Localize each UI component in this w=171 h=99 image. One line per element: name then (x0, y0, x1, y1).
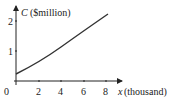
y-axis-unit: ($million) (30, 7, 71, 19)
x-tick-label-6: 6 (81, 86, 86, 97)
cost-curve (16, 14, 108, 74)
origin-label: 0 (4, 86, 9, 97)
y-tick-label-1: 1 (8, 46, 13, 57)
x-axis-var: x (117, 86, 123, 97)
x-tick-label-8: 8 (103, 86, 108, 97)
x-tick-label-2: 2 (36, 86, 41, 97)
cost-chart: 0 2 4 6 8 1 2 x (thousand) C ($million) (0, 0, 171, 99)
y-tick-label-2: 2 (8, 16, 13, 27)
y-axis-var: C (21, 7, 28, 18)
x-tick-label-4: 4 (58, 86, 63, 97)
x-axis-unit: (thousand) (124, 86, 167, 98)
tick-marks (15, 21, 106, 82)
